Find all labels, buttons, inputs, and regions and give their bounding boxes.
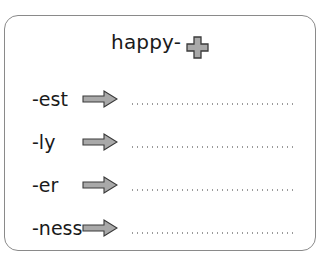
answer-line[interactable] <box>130 189 293 191</box>
suffix-label: -er <box>32 170 58 200</box>
suffix-label: -ly <box>32 127 55 157</box>
answer-line[interactable] <box>130 146 293 148</box>
arrow-right-icon <box>82 176 118 194</box>
suffix-label: -ness <box>32 213 82 243</box>
plus-icon <box>186 36 209 59</box>
answer-line[interactable] <box>130 232 293 234</box>
suffix-label: -est <box>32 84 68 114</box>
suffix-row: -ness <box>0 213 327 243</box>
arrow-right-icon <box>82 90 118 108</box>
suffix-row: -ly <box>0 127 327 157</box>
arrow-right-icon <box>82 219 118 237</box>
suffix-row: -er <box>0 170 327 200</box>
suffix-row: -est <box>0 84 327 114</box>
answer-line[interactable] <box>130 103 293 105</box>
arrow-right-icon <box>82 133 118 151</box>
root-word: happy- <box>111 28 181 56</box>
